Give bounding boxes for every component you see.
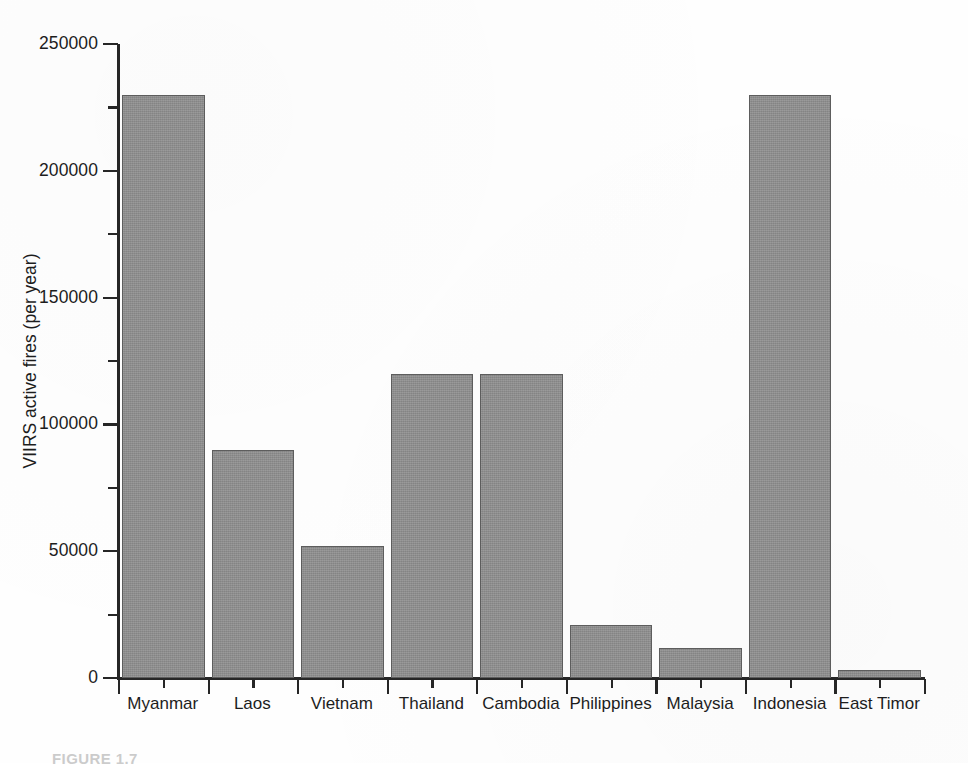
y-axis-major-tick	[103, 677, 118, 679]
x-axis-major-tick	[655, 679, 657, 694]
figure-caption: FIGURE 1.7	[52, 750, 942, 768]
bar-texture	[839, 671, 920, 677]
y-axis-minor-tick	[108, 614, 118, 616]
bar	[122, 95, 205, 678]
bar-texture	[481, 375, 562, 677]
y-axis-tick-label: 100000	[39, 413, 98, 434]
x-axis-category-label: Cambodia	[476, 694, 566, 714]
bar-texture	[750, 96, 831, 677]
x-axis-category-label: East Timor	[834, 694, 924, 714]
x-axis-category-label: Malaysia	[655, 694, 745, 714]
bar	[749, 95, 832, 678]
y-axis-title: VIIRS active fires (per year)	[20, 254, 41, 469]
x-axis-major-tick	[297, 679, 299, 694]
y-axis-tick-label: 0	[88, 667, 98, 688]
x-axis-major-tick	[745, 679, 747, 694]
x-axis-major-tick	[208, 679, 210, 694]
bar-texture	[660, 649, 741, 677]
x-axis-minor-tick	[342, 679, 344, 688]
x-axis-minor-tick	[431, 679, 433, 688]
bar	[301, 546, 384, 678]
x-axis-category-label: Thailand	[387, 694, 477, 714]
bar-texture	[123, 96, 204, 677]
y-axis-tick-label: 50000	[49, 540, 98, 561]
y-axis-major-tick	[103, 297, 118, 299]
x-axis-category-label: Philippines	[566, 694, 656, 714]
y-axis-tick-label: 150000	[39, 287, 98, 308]
bar	[480, 374, 563, 678]
x-axis-major-tick	[118, 679, 120, 694]
bar	[570, 625, 653, 678]
bar-texture	[213, 451, 294, 677]
x-axis-major-tick	[387, 679, 389, 694]
x-axis-category-label: Indonesia	[745, 694, 835, 714]
x-axis-major-tick	[924, 679, 926, 694]
x-axis-major-tick	[566, 679, 568, 694]
x-axis-category-label: Myanmar	[118, 694, 208, 714]
bar-texture	[302, 547, 383, 677]
x-axis-category-label: Laos	[208, 694, 298, 714]
x-axis-minor-tick	[611, 679, 613, 688]
x-axis-minor-tick	[521, 679, 523, 688]
bar	[212, 450, 295, 678]
bar-texture	[571, 626, 652, 677]
y-axis-major-tick	[103, 43, 118, 45]
x-axis-minor-tick	[252, 679, 254, 688]
x-axis-minor-tick	[163, 679, 165, 688]
figure-caption-label: FIGURE 1.7	[52, 750, 138, 767]
x-axis-minor-tick	[879, 679, 881, 688]
x-axis-category-label: Vietnam	[297, 694, 387, 714]
bar-texture	[392, 375, 473, 677]
y-axis-minor-tick	[108, 233, 118, 235]
bar	[838, 670, 921, 678]
x-axis-major-tick	[834, 679, 836, 694]
x-axis-minor-tick	[700, 679, 702, 688]
bar	[659, 648, 742, 678]
x-axis-major-tick	[476, 679, 478, 694]
bar	[391, 374, 474, 678]
y-axis-major-tick	[103, 550, 118, 552]
x-axis-minor-tick	[790, 679, 792, 688]
y-axis-minor-tick	[108, 360, 118, 362]
y-axis-tick-label: 250000	[39, 33, 98, 54]
y-axis-minor-tick	[108, 487, 118, 489]
y-axis-major-tick	[103, 423, 118, 425]
y-axis-major-tick	[103, 170, 118, 172]
y-axis-minor-tick	[108, 106, 118, 108]
y-axis-tick-label: 200000	[39, 160, 98, 181]
